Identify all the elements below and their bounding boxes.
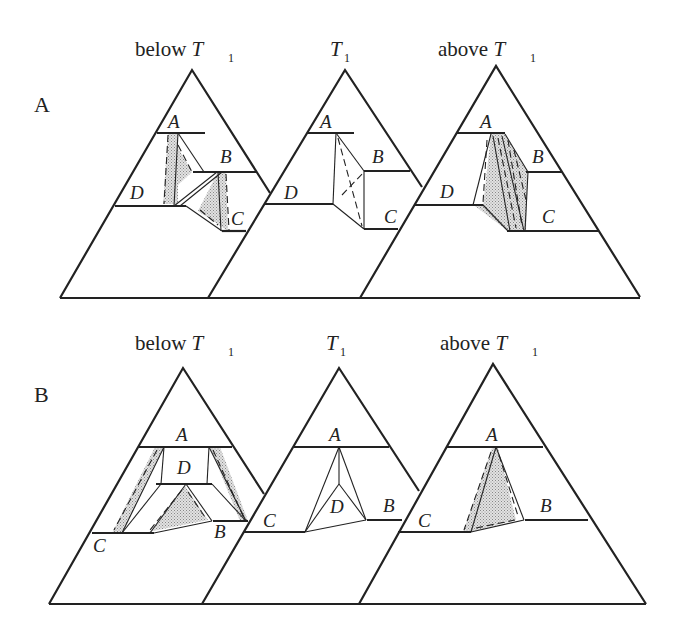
- phase-label-a: A: [166, 111, 180, 132]
- panel-b3-title: above T 1: [440, 331, 538, 359]
- phase-label-a: A: [318, 111, 332, 132]
- panel-a2-diagram: A B D C: [265, 111, 410, 229]
- temperature-symbol: T: [495, 331, 508, 355]
- temperature-symbol: T: [326, 331, 339, 355]
- phase-label-c: C: [418, 510, 431, 531]
- phase-label-b: B: [214, 521, 226, 542]
- panel-a1-title: below T 1: [135, 37, 234, 65]
- phase-label-c: C: [231, 208, 244, 229]
- phase-label-a: A: [478, 111, 492, 132]
- phase-label-d: D: [129, 182, 144, 203]
- temperature-subscript: 1: [340, 345, 346, 359]
- phase-label-b: B: [383, 495, 395, 516]
- phase-label-c: C: [384, 206, 397, 227]
- temperature-symbol: T: [493, 37, 506, 61]
- temperature-subscript: 1: [532, 345, 538, 359]
- row-label-b: B: [34, 382, 49, 407]
- phase-label-d: D: [329, 496, 344, 517]
- temperature-subscript: 1: [228, 51, 234, 65]
- two-phase-region: [178, 148, 192, 185]
- temperature-subscript: 1: [530, 51, 536, 65]
- panel-a3-title: above T 1: [438, 37, 536, 65]
- two-phase-region: [198, 172, 228, 231]
- panel-b2-title: T 1: [326, 331, 346, 359]
- temperature-subscript: 1: [228, 345, 234, 359]
- phase-label-a: A: [174, 424, 188, 445]
- panel-b2-diagram: A D C B: [244, 424, 402, 532]
- phase-label-d: D: [439, 181, 454, 202]
- panel-a1-diagram: A B D C: [115, 111, 256, 231]
- temperature-subscript: 1: [344, 51, 350, 65]
- phase-label-c: C: [93, 535, 106, 556]
- phase-label-a: A: [327, 424, 341, 445]
- panel-b1-title: below T 1: [135, 331, 234, 359]
- phase-label-a: A: [484, 424, 498, 445]
- phase-label-d: D: [176, 457, 191, 478]
- row-a: A below T 1 T 1 above T 1: [34, 37, 640, 298]
- two-phase-region: [148, 486, 208, 532]
- panel-title-text: above: [438, 37, 488, 61]
- phase-label-b: B: [220, 146, 232, 167]
- row-label-a: A: [34, 92, 50, 117]
- panel-a2-title: T 1: [330, 37, 350, 65]
- panel-b1-diagram: A D C B: [92, 424, 248, 556]
- row-b: B below T 1 T 1 above T 1: [34, 331, 646, 604]
- temperature-symbol: T: [192, 331, 205, 355]
- svg-text:above T: above T: [438, 37, 506, 61]
- phase-label-c: C: [542, 206, 555, 227]
- two-phase-region: [463, 448, 516, 532]
- phase-label-b: B: [532, 146, 544, 167]
- panel-b3-diagram: A C B: [398, 424, 588, 532]
- phase-label-b: B: [372, 146, 384, 167]
- svg-text:below T: below T: [135, 331, 205, 355]
- svg-text:below T: below T: [135, 37, 205, 61]
- triangle-outline-a2: [208, 70, 422, 298]
- panel-title-text: below: [135, 331, 187, 355]
- phase-label-c: C: [263, 510, 276, 531]
- temperature-symbol: T: [330, 37, 343, 61]
- temperature-symbol: T: [192, 37, 205, 61]
- panel-title-text: above: [440, 331, 490, 355]
- panel-a3-diagram: A B D C: [415, 111, 598, 231]
- phase-label-b: B: [540, 495, 552, 516]
- phase-diagram-figure: A below T 1 T 1 above T 1: [0, 0, 676, 629]
- panel-title-text: below: [135, 37, 187, 61]
- phase-label-d: D: [283, 182, 298, 203]
- svg-text:above T: above T: [440, 331, 508, 355]
